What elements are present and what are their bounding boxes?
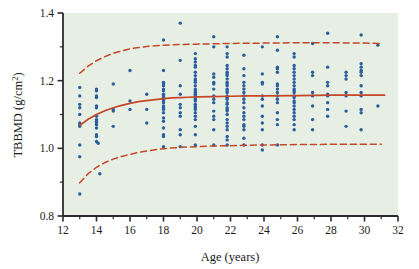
x-axis-tick-label: 16: [124, 224, 136, 236]
svg-text:TBBMD (g/cm2): TBBMD (g/cm2): [10, 72, 25, 157]
scatter-point: [292, 91, 295, 94]
scatter-point: [212, 98, 215, 101]
scatter-point: [344, 77, 347, 80]
scatter-point: [344, 71, 347, 74]
scatter-point: [242, 114, 245, 117]
y-axis-title: TBBMD (g/cm2): [10, 72, 25, 157]
scatter-point: [225, 52, 228, 55]
scatter-point: [212, 109, 215, 112]
scatter-point: [78, 155, 81, 158]
scatter-point: [112, 125, 115, 128]
scatter-point: [225, 109, 228, 112]
scatter-point: [225, 67, 228, 70]
scatter-point: [344, 91, 347, 94]
x-axis-title: Age (years): [201, 250, 260, 264]
scatter-point: [194, 57, 197, 60]
scatter-point: [194, 60, 197, 63]
scatter-point: [261, 82, 264, 85]
scatter-chart-figure: 1214161820222426283032 0.81.01.21.4 Age …: [0, 0, 419, 269]
scatter-point: [162, 116, 165, 119]
scatter-point: [95, 123, 98, 126]
scatter-point: [95, 135, 98, 138]
scatter-point: [261, 121, 264, 124]
scatter-point: [242, 74, 245, 77]
y-axis-tick-label: 0.8: [40, 210, 55, 222]
scatter-point: [212, 35, 215, 38]
scatter-point: [112, 109, 115, 112]
scatter-point: [212, 87, 215, 90]
scatter-point: [225, 128, 228, 131]
scatter-point: [225, 118, 228, 121]
scatter-point: [326, 84, 329, 87]
scatter-point: [311, 118, 314, 121]
scatter-point: [162, 111, 165, 114]
scatter-point: [292, 128, 295, 131]
x-axis-tick-label: 30: [359, 224, 371, 236]
scatter-point: [78, 103, 81, 106]
scatter-point: [78, 113, 81, 116]
scatter-point: [95, 106, 98, 109]
scatter-point: [225, 84, 228, 87]
scatter-point: [276, 111, 279, 114]
scatter-point: [292, 74, 295, 77]
scatter-point: [225, 64, 228, 67]
scatter-point: [242, 67, 245, 70]
scatter-point: [261, 114, 264, 117]
x-axis-tick-label: 26: [292, 224, 304, 236]
scatter-point: [78, 86, 81, 89]
scatter-point: [242, 98, 245, 101]
scatter-point: [95, 89, 98, 92]
scatter-point: [359, 128, 362, 131]
scatter-point: [212, 72, 215, 75]
x-axis-tick-label: 18: [158, 224, 170, 236]
scatter-point: [179, 59, 182, 62]
x-axis-tick-label: 22: [225, 224, 237, 236]
scatter-point: [292, 64, 295, 67]
scatter-point: [179, 133, 182, 136]
scatter-point: [128, 108, 131, 111]
scatter-point: [162, 89, 165, 92]
scatter-point: [179, 128, 182, 131]
scatter-point: [359, 71, 362, 74]
y-axis-tick-labels: 0.81.01.21.4: [40, 7, 55, 222]
scatter-point: [242, 91, 245, 94]
scatter-point: [95, 96, 98, 99]
scatter-point: [242, 136, 245, 139]
scatter-point: [276, 84, 279, 87]
scatter-point: [179, 111, 182, 114]
scatter-point: [292, 123, 295, 126]
scatter-point: [212, 76, 215, 79]
scatter-point: [96, 142, 99, 145]
scatter-point: [276, 87, 279, 90]
scatter-point: [112, 82, 115, 85]
scatter-point: [242, 101, 245, 104]
scatter-point: [276, 71, 279, 74]
scatter-point: [212, 114, 215, 117]
scatter-point: [162, 84, 165, 87]
scatter-point: [344, 74, 347, 77]
scatter-point: [326, 32, 329, 35]
scatter-point: [225, 55, 228, 58]
scatter-point: [95, 126, 98, 129]
scatter-point: [162, 126, 165, 129]
scatter-point: [261, 128, 264, 131]
scatter-point: [242, 128, 245, 131]
scatter-point: [261, 98, 264, 101]
scatter-point: [242, 87, 245, 90]
scatter-point: [292, 84, 295, 87]
y-axis-tick-label: 1.2: [40, 75, 55, 87]
scatter-point: [194, 108, 197, 111]
scatter-point: [162, 135, 165, 138]
scatter-point: [145, 121, 148, 124]
scatter-point: [128, 69, 131, 72]
x-axis-tick-label: 28: [325, 224, 337, 236]
x-axis-tick-label: 14: [91, 224, 103, 236]
scatter-point: [162, 38, 165, 41]
scatter-point: [261, 72, 264, 75]
x-axis-tick-label: 32: [392, 224, 404, 236]
scatter-point: [194, 133, 197, 136]
scatter-point: [225, 77, 228, 80]
scatter-point: [194, 81, 197, 84]
scatter-point: [162, 101, 165, 104]
scatter-point: [225, 91, 228, 94]
